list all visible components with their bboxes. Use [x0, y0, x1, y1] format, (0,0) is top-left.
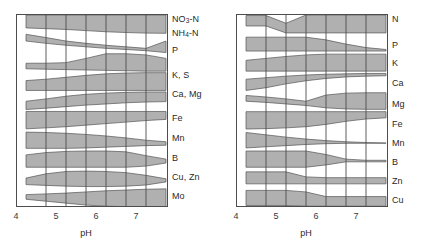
xtick-left-3: 7	[129, 211, 143, 221]
nutrient-label-ca: Ca	[392, 78, 404, 88]
nutrient-label-zn: Zn	[392, 176, 403, 186]
nutrient-label-mg: Mg	[392, 99, 405, 109]
xaxis-title-left: pH	[66, 228, 106, 238]
nutrient-label-cuzn: Cu, Zn	[172, 172, 200, 182]
nutrient-label-ks: K, S	[172, 70, 189, 80]
nutrient-availability-figure: 4 5 6 7 pH NO3-N NH4-N P K, S Ca, Mg Fe …	[0, 0, 424, 248]
nutrient-label-no3n: NO3-N	[172, 14, 199, 24]
xtick-left-1: 5	[49, 211, 63, 221]
plot-area-right	[236, 14, 388, 207]
nutrient-label-fe: Fe	[172, 113, 183, 123]
nutrient-label-k: K	[392, 58, 398, 68]
xaxis-title-right: pH	[286, 228, 326, 238]
nutrient-label-fe2: Fe	[392, 119, 403, 129]
nutrient-label-cu: Cu	[392, 195, 404, 205]
nutrient-label-b: B	[172, 153, 178, 163]
nutrient-label-mo: Mo	[172, 191, 185, 201]
nutrient-label-p2: P	[392, 40, 398, 50]
plot-area-left	[16, 14, 168, 207]
nutrient-label-mn: Mn	[172, 133, 185, 143]
xtick-left-0: 4	[9, 211, 23, 221]
xtick-right-0: 4	[229, 211, 243, 221]
panel-right: 4 5 6 7 pH N P K Ca Mg Fe Mn B Zn Cu	[212, 0, 424, 248]
nutrient-label-b2: B	[392, 157, 398, 167]
nutrient-label-nh4n: NH4-N	[172, 28, 199, 38]
xtick-right-3: 7	[349, 211, 363, 221]
nutrient-label-p: P	[172, 45, 178, 55]
xtick-right-1: 5	[269, 211, 283, 221]
xtick-right-2: 6	[309, 211, 323, 221]
xtick-left-2: 6	[89, 211, 103, 221]
panel-left: 4 5 6 7 pH NO3-N NH4-N P K, S Ca, Mg Fe …	[0, 0, 212, 248]
nutrient-label-camg: Ca, Mg	[172, 89, 202, 99]
nutrient-label-n: N	[392, 14, 399, 24]
nutrient-label-mn2: Mn	[392, 138, 405, 148]
